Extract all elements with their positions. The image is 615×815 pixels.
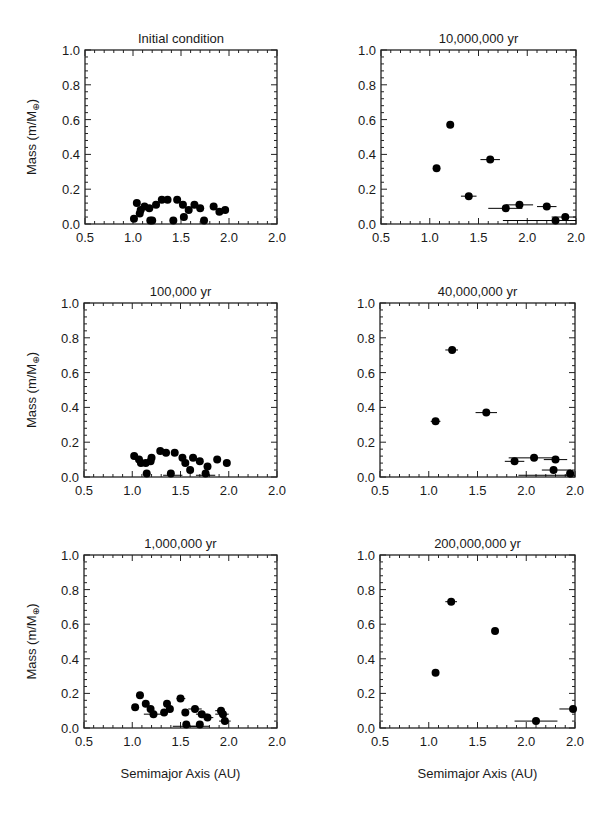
x-tick-label: 1.5 <box>172 230 190 245</box>
data-point <box>433 164 441 172</box>
y-tick-label: 1.0 <box>61 548 79 563</box>
data-point <box>219 710 227 718</box>
panel-5: 1,000,000 yr0.51.01.52.02.00.00.20.40.60… <box>24 536 286 781</box>
data-point <box>200 217 208 225</box>
data-point <box>166 705 174 713</box>
plot-frame <box>85 50 277 224</box>
data-point <box>543 203 551 211</box>
y-tick-label: 0.2 <box>357 686 375 701</box>
panel-6: 200,000,000 yr0.51.01.52.02.00.00.20.40.… <box>357 536 584 781</box>
x-tick-label: 0.5 <box>371 734 389 749</box>
data-point <box>204 714 212 722</box>
data-point <box>149 710 157 718</box>
y-tick-label: 0.0 <box>358 217 376 232</box>
data-point <box>181 708 189 716</box>
data-point <box>552 456 560 464</box>
data-point <box>491 627 499 635</box>
data-point <box>511 457 519 465</box>
data-point <box>191 705 199 713</box>
data-point <box>486 156 494 164</box>
y-tick-label: 1.0 <box>357 296 375 311</box>
x-tick-label: 0.5 <box>75 483 93 498</box>
x-tick-label: 1.0 <box>420 483 438 498</box>
y-tick-label: 0.8 <box>61 583 79 598</box>
x-axis-label: Semimajor Axis (AU) <box>418 766 538 781</box>
y-tick-label: 0.8 <box>357 583 375 598</box>
y-tick-label: 0.6 <box>358 113 376 128</box>
x-tick-label: 0.5 <box>372 230 390 245</box>
panel-title: 100,000 yr <box>150 284 212 299</box>
data-point <box>448 346 456 354</box>
y-tick-label: 0.0 <box>61 721 79 736</box>
data-point <box>552 217 560 225</box>
y-axis-label: Mass (m/M⊕) <box>24 99 41 175</box>
x-tick-label: 2.0 <box>566 734 584 749</box>
plot-frame <box>380 303 575 477</box>
data-point <box>196 721 204 729</box>
x-tick-label: 1.0 <box>421 230 439 245</box>
panel-title: 1,000,000 yr <box>144 536 217 551</box>
data-point <box>148 454 156 462</box>
data-point <box>196 457 204 465</box>
panel-1: Initial condition0.51.01.52.02.00.00.20.… <box>24 31 286 245</box>
panel-title: 10,000,000 yr <box>439 31 519 46</box>
x-tick-label: 1.5 <box>171 483 189 498</box>
x-tick-label: 0.5 <box>75 734 93 749</box>
data-point <box>189 454 197 462</box>
y-tick-label: 0.0 <box>61 470 79 485</box>
y-tick-label: 0.0 <box>357 721 375 736</box>
x-tick-label: 2.0 <box>220 483 238 498</box>
data-point <box>515 201 523 209</box>
data-point <box>221 717 229 725</box>
data-point <box>561 213 569 221</box>
data-point <box>223 459 231 467</box>
y-tick-label: 0.2 <box>62 182 80 197</box>
data-point <box>550 466 558 474</box>
x-tick-label: 0.5 <box>76 230 94 245</box>
x-tick-label: 1.5 <box>468 734 486 749</box>
y-tick-label: 0.0 <box>62 217 80 232</box>
y-tick-label: 0.8 <box>357 331 375 346</box>
x-tick-label: 1.5 <box>469 230 487 245</box>
x-tick-label: 2.0 <box>220 230 238 245</box>
data-point <box>204 463 212 471</box>
y-axis-label: Mass (m/M⊕) <box>24 603 41 679</box>
x-tick-label: 1.5 <box>171 734 189 749</box>
x-tick-label: 0.5 <box>371 483 389 498</box>
data-point <box>569 705 577 713</box>
data-point <box>502 204 510 212</box>
y-tick-label: 0.2 <box>61 435 79 450</box>
y-tick-label: 0.6 <box>61 617 79 632</box>
y-tick-label: 0.4 <box>358 147 376 162</box>
data-point <box>447 598 455 606</box>
x-tick-label: 1.5 <box>468 483 486 498</box>
data-point <box>213 456 221 464</box>
y-tick-label: 0.6 <box>62 113 80 128</box>
data-point <box>171 449 179 457</box>
y-tick-label: 0.4 <box>61 400 79 415</box>
data-point <box>143 470 151 478</box>
y-axis-label: Mass (m/M⊕) <box>24 352 41 428</box>
panel-title: Initial condition <box>138 31 224 46</box>
x-tick-label: 2.0 <box>220 734 238 749</box>
x-tick-label: 2.0 <box>566 483 584 498</box>
data-point <box>432 669 440 677</box>
plot-frame <box>381 50 576 224</box>
y-tick-label: 1.0 <box>357 548 375 563</box>
y-tick-label: 0.8 <box>358 78 376 93</box>
data-point <box>221 206 229 214</box>
x-tick-label: 2.0 <box>517 483 535 498</box>
panel-2: 10,000,000 yr0.51.01.52.02.00.00.20.40.6… <box>358 31 585 245</box>
data-point <box>432 417 440 425</box>
y-tick-label: 0.4 <box>357 400 375 415</box>
data-point <box>186 466 194 474</box>
data-point <box>196 204 204 212</box>
data-point <box>446 121 454 129</box>
y-tick-label: 0.2 <box>61 686 79 701</box>
y-tick-label: 0.2 <box>357 435 375 450</box>
x-tick-label: 2.0 <box>518 230 536 245</box>
data-point <box>164 196 172 204</box>
data-point <box>133 199 141 207</box>
plot-frame <box>380 555 575 728</box>
x-tick-label: 2.0 <box>567 230 585 245</box>
